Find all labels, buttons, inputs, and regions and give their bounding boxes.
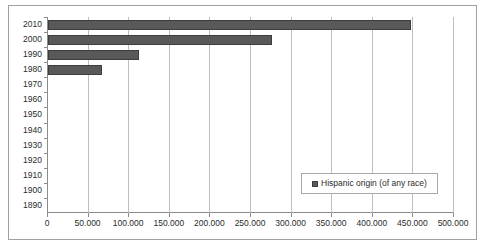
x-axis-tick (331, 213, 332, 217)
x-axis-tick (128, 213, 129, 217)
x-axis-tick (412, 213, 413, 217)
x-axis-tick-label: 0 (45, 219, 50, 228)
bar-row: 1930 (47, 138, 453, 153)
x-axis-tick (453, 213, 454, 217)
y-axis-tick (44, 153, 47, 154)
x-axis-tick-label: 350.000 (316, 219, 347, 228)
x-axis-tick (250, 213, 251, 217)
y-axis-tick-label: 1940 (2, 126, 42, 135)
y-axis-tick-label: 1910 (2, 171, 42, 180)
bar-row: 1890 (47, 198, 453, 213)
y-axis-tick (44, 62, 47, 63)
x-axis-tick (169, 213, 170, 217)
bar[interactable] (48, 65, 102, 75)
y-axis-tick (44, 92, 47, 93)
gridline (453, 17, 454, 213)
y-axis-tick (44, 123, 47, 124)
x-axis-tick (88, 213, 89, 217)
y-axis-tick-label: 1970 (2, 80, 42, 89)
y-axis-tick-label: 1980 (2, 65, 42, 74)
bar[interactable] (48, 20, 411, 30)
x-axis-tick (209, 213, 210, 217)
y-axis-tick (44, 107, 47, 108)
bar[interactable] (48, 50, 139, 60)
y-axis-tick-label: 1960 (2, 95, 42, 104)
bar-row: 1960 (47, 92, 453, 107)
y-axis-tick (44, 198, 47, 199)
bar[interactable] (48, 35, 272, 45)
y-axis-tick (44, 168, 47, 169)
x-axis-tick-label: 450.000 (397, 219, 428, 228)
y-axis-tick-label: 2010 (2, 20, 42, 29)
x-axis-tick-label: 150.000 (153, 219, 184, 228)
chart-legend[interactable]: Hispanic origin (of any race) (301, 173, 438, 194)
x-axis-tick-label: 400.000 (356, 219, 387, 228)
legend-swatch-icon (312, 181, 318, 187)
y-axis-tick (44, 32, 47, 33)
legend-label: Hispanic origin (of any race) (321, 179, 427, 188)
x-axis-tick-label: 100.000 (113, 219, 144, 228)
x-axis-tick-label: 250.000 (235, 219, 266, 228)
bar-row: 1980 (47, 62, 453, 77)
x-axis-tick-label: 200.000 (194, 219, 225, 228)
x-axis-tick (372, 213, 373, 217)
bar-row: 1920 (47, 153, 453, 168)
bar-row: 1970 (47, 77, 453, 92)
x-axis-tick (291, 213, 292, 217)
y-axis-tick-label: 1930 (2, 141, 42, 150)
x-axis-tick-label: 50.000 (75, 219, 101, 228)
y-axis-tick (44, 17, 47, 18)
x-axis-tick (47, 213, 48, 217)
bar-row: 1990 (47, 47, 453, 62)
y-axis-tick (44, 183, 47, 184)
bar-row: 2000 (47, 32, 453, 47)
bar-row: 2010 (47, 17, 453, 32)
y-axis-tick (44, 138, 47, 139)
y-axis-tick (44, 77, 47, 78)
bar-row: 1940 (47, 123, 453, 138)
y-axis-tick-label: 1950 (2, 110, 42, 119)
y-axis-tick-label: 1900 (2, 186, 42, 195)
chart-frame: 050.000100.000150.000200.000250.000300.0… (8, 5, 477, 240)
y-axis-tick-label: 1920 (2, 156, 42, 165)
y-axis-tick-label: 1890 (2, 201, 42, 210)
x-axis-tick-label: 500.000 (438, 219, 469, 228)
y-axis-tick-label: 2000 (2, 35, 42, 44)
bar-row: 1950 (47, 107, 453, 122)
y-axis-tick (44, 47, 47, 48)
y-axis-tick-label: 1990 (2, 50, 42, 59)
x-axis-tick-label: 300.000 (275, 219, 306, 228)
